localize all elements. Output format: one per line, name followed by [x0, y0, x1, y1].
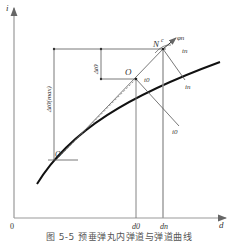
delta-t0-label: Δt0 — [92, 64, 100, 75]
oprime-o-dashed — [56, 79, 136, 160]
point-o-label: O — [125, 67, 132, 77]
oprime-n-line — [56, 49, 163, 160]
y-axis-label: i — [6, 3, 9, 13]
tn-label: tn — [182, 47, 188, 55]
phi-n-arrow — [163, 38, 176, 49]
t0-label: t0 — [144, 76, 150, 84]
trajectory-curve — [37, 62, 220, 184]
diagram-canvas: i d 0 N c O O' φn tn in t0 i0 Δt0 Δt0(ma… — [0, 0, 238, 248]
x-axis-label: d — [219, 220, 224, 230]
point-n-sup: c — [161, 37, 164, 43]
point-oprime-label: O' — [55, 150, 63, 159]
delta-t0max-label: Δt0(max) — [45, 85, 53, 113]
phi-n-label: φn — [177, 34, 185, 42]
in-label: in — [185, 83, 191, 91]
figure-caption: 图 5-5 预垂弹丸内弹道与弹道曲线 — [0, 230, 238, 243]
i0-label: i0 — [172, 128, 178, 136]
point-n-label: N — [152, 39, 160, 49]
i0-line — [136, 79, 179, 126]
